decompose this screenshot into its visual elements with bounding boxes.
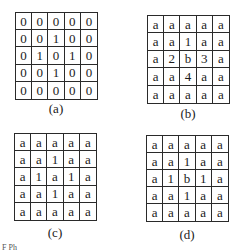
grid-cell: a [15,134,31,151]
grid-cell: a [148,33,164,50]
grid-cell: a [212,170,228,187]
grid-cell: 0 [48,82,64,99]
grid-cell: 1 [163,170,179,187]
grid-cell: a [197,33,213,50]
grid-cell: 1 [48,30,64,47]
grid-cell: a [147,204,163,221]
grid-cell: a [15,186,31,203]
grid-cell: 1 [64,168,80,185]
grid-cell: a [163,153,179,170]
grid-cell: a [213,33,229,50]
grid-cell: a [164,86,180,103]
grid-cell: 0 [81,47,97,64]
grid-cell: a [179,136,195,153]
grid-cell: b [179,170,195,187]
grid-cell: a [213,86,229,103]
grid-cell: a [163,136,179,153]
grid-cell: a [64,151,80,168]
grid-cell: a [147,170,163,187]
grid-cell: 0 [81,82,97,99]
grid-cell: a [80,168,96,185]
figure-caption-fragment: F Ph [2,243,17,250]
grid-cell: a [80,186,96,203]
grid-cell: a [197,86,213,103]
grid-cell: 3 [197,51,213,68]
grid-cell: 0 [81,30,97,47]
grid-cell: a [15,203,31,220]
grid-cell: 0 [65,30,81,47]
panel-label-a: (a) [36,101,76,117]
grid-cell: 0 [81,13,97,30]
grid-cell: 1 [196,170,212,187]
grid-cell: a [196,204,212,221]
grid-cell: a [164,68,180,85]
grid-cell: 1 [179,187,195,204]
grid-cell: a [197,68,213,85]
grid-cell: a [15,168,31,185]
grid-cell: a [64,203,80,220]
grid-cell: a [47,203,63,220]
grid-cell: 1 [31,168,47,185]
grid-cell: a [31,186,47,203]
grid-cell: a [31,203,47,220]
grid-d: aaaaaaa1aaa1b1aaa1aaaaaaa [146,135,229,222]
grid-cell: 0 [32,30,48,47]
grid-cell: b [180,51,196,68]
grid-cell: a [196,153,212,170]
grid-b: aaaaaaa1aaa2b3aaa4aaaaaaa [147,15,230,104]
grid-cell: a [164,33,180,50]
grid-cell: 0 [32,82,48,99]
grid-cell: 0 [16,30,32,47]
grid-cell: a [180,86,196,103]
grid-cell: a [80,134,96,151]
grid-cell: a [213,68,229,85]
grid-cell: 1 [32,47,48,64]
grid-cell: a [180,16,196,33]
panel-label-d: (d) [167,227,207,243]
grid-cell: 0 [16,65,32,82]
grid-cell: 0 [16,47,32,64]
grid-cell: 1 [65,47,81,64]
grid-cell: a [147,153,163,170]
grid-cell: a [147,187,163,204]
grid-cell: 0 [48,47,64,64]
grid-cell: 2 [164,51,180,68]
grid-cell: 0 [16,13,32,30]
grid-cell: 4 [180,68,196,85]
grid-cell: 0 [65,65,81,82]
grid-cell: a [163,187,179,204]
grid-cell: 0 [32,13,48,30]
grid-cell: 0 [16,82,32,99]
grid-cell: a [212,153,228,170]
grid-cell: a [197,16,213,33]
grid-cell: a [164,16,180,33]
grid-cell: a [148,68,164,85]
grid-cell: a [212,136,228,153]
grid-cell: 1 [47,186,63,203]
grid-cell: 0 [81,65,97,82]
grid-cell: 0 [32,65,48,82]
grid-cell: 1 [180,33,196,50]
grid-cell: a [179,204,195,221]
grid-cell: a [64,134,80,151]
grid-cell: a [212,204,228,221]
grid-a: 0000000100010100010000000 [15,12,98,100]
grid-cell: a [80,151,96,168]
grid-cell: a [213,51,229,68]
grid-cell: a [64,186,80,203]
grid-cell: a [31,151,47,168]
grid-cell: a [47,168,63,185]
panel-label-c: (c) [35,225,75,241]
grid-cell: 1 [48,65,64,82]
grid-cell: a [31,134,47,151]
grid-cell: 1 [47,151,63,168]
grid-cell: 0 [65,13,81,30]
grid-cell: 0 [65,82,81,99]
grid-cell: a [148,16,164,33]
grid-cell: a [196,136,212,153]
grid-cell: a [80,203,96,220]
grid-cell: a [196,187,212,204]
grid-c: aaaaaaa1aaa1a1aaa1aaaaaaa [14,133,97,221]
grid-cell: a [212,187,228,204]
grid-cell: a [163,204,179,221]
